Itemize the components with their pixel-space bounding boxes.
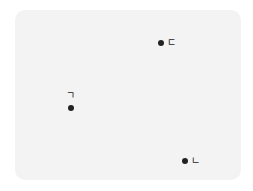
point-digeut [158,40,164,46]
point-label-giyeok: ㄱ [66,91,75,101]
point-giyeok [68,105,74,111]
point-label-nieun: ㄴ [191,156,200,166]
point-label-digeut: ㄷ [167,38,176,48]
point-nieun [182,158,188,164]
diagram-panel [15,10,241,180]
